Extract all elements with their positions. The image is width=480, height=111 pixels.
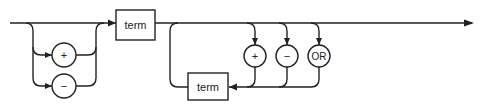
sign-branch-right [76,23,104,55]
arrow-into-op-plus-icon [252,38,258,45]
op-or-node: OR [308,45,330,67]
sign-minus-label: − [61,80,67,92]
term-first-node: term [116,10,155,40]
arrow-into-op-minus-icon [284,38,290,45]
return-from-op-minus [279,67,287,87]
arrow-into-term-repeat-icon [229,84,237,91]
term-repeat-label: term [197,81,219,93]
arrow-into-op-or-icon [316,38,322,45]
exit-arrow-icon [464,20,474,27]
op-minus-node: − [276,45,298,67]
arrow-into-term-icon [108,20,116,27]
op-or-label: OR [312,51,327,62]
arrow-into-minus-icon [45,83,52,89]
sign-plus-node: + [52,43,76,67]
return-from-op-or [229,67,319,87]
loop-back-path [170,23,188,87]
term-first-label: term [125,19,147,31]
sign-minus-node: − [52,74,76,98]
op-plus-label: + [252,50,258,62]
op-plus-node: + [244,45,266,67]
term-repeat-node: term [188,73,228,100]
return-from-op-plus [247,67,255,87]
op-minus-label: − [284,50,290,62]
sign-plus-label: + [61,49,67,61]
syntax-diagram: + − term + − OR term [0,0,480,111]
arrow-into-plus-icon [45,52,52,58]
sign-branch-right-minus [76,47,96,86]
